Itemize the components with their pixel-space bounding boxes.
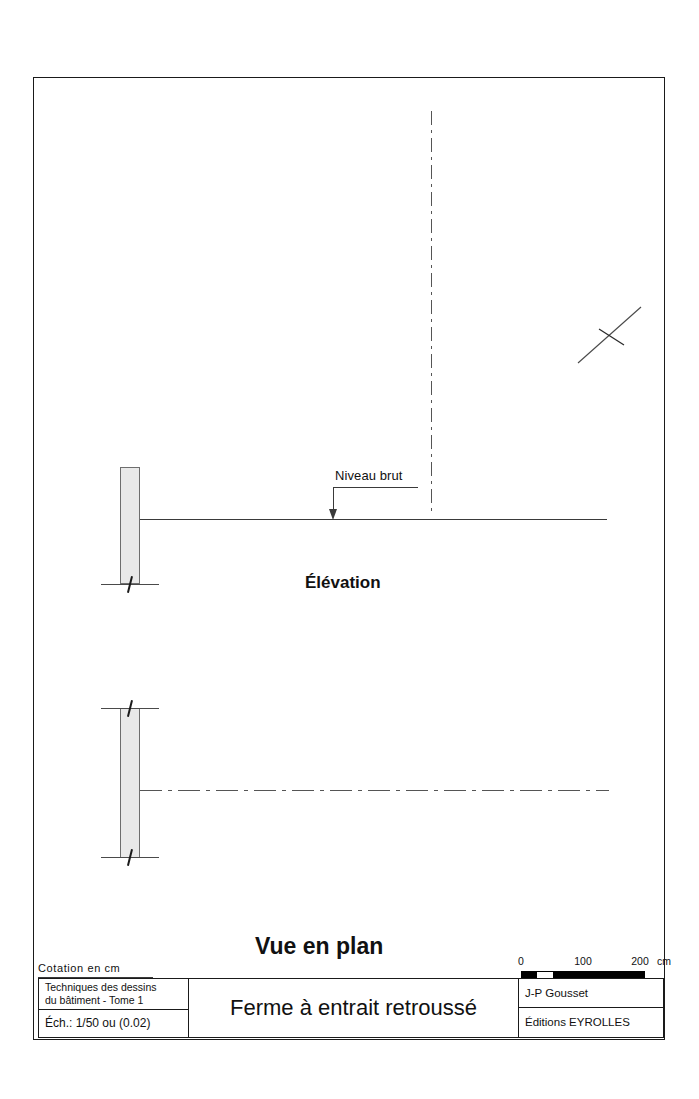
elevation-caption: Élévation — [305, 573, 381, 593]
plan-wall-element — [120, 708, 140, 858]
book-title-line1: Techniques des dessins — [45, 981, 182, 994]
drawing-sheet-border: Niveau brut Élévation Vue en plan 0 — [33, 77, 665, 1040]
plan-caption: Vue en plan — [255, 933, 383, 960]
publisher-name: Éditions EYROLLES — [525, 1015, 657, 1029]
scale-bar-labels: 0 100 200 cm — [475, 955, 651, 969]
scale-unit: cm — [655, 955, 673, 967]
title-block-right-column: J-P Gousset Éditions EYROLLES — [519, 979, 663, 1037]
scale-tick-0: 0 — [513, 955, 529, 967]
cotation-note: Cotation en cm — [38, 962, 120, 974]
scale-ratio-cell: Éch.: 1/50 ou (0.02) — [39, 1010, 188, 1037]
plan-horizontal-centerline — [140, 790, 609, 791]
title-block-middle-column: Ferme à entrait retroussé — [189, 979, 519, 1037]
publisher-cell: Éditions EYROLLES — [519, 1008, 663, 1037]
niveau-brut-label: Niveau brut — [335, 468, 403, 483]
section-break-symbol — [574, 302, 646, 368]
scale-bar: 0 100 200 cm — [475, 955, 651, 969]
niveau-brut-leader-vertical — [333, 487, 334, 511]
title-block: Techniques des dessins du bâtiment - Tom… — [38, 978, 664, 1038]
drawing-title: Ferme à entrait retroussé — [230, 995, 477, 1021]
scale-tick-200: 200 — [627, 955, 653, 967]
book-reference-cell: Techniques des dessins du bâtiment - Tom… — [39, 979, 188, 1010]
elevation-ground-line — [138, 519, 607, 520]
niveau-brut-level-triangle — [329, 509, 337, 520]
elevation-wall-element — [120, 467, 140, 584]
elevation-vertical-centerline — [431, 111, 432, 511]
level-triangle-inner — [334, 520, 340, 527]
book-title-line2: du bâtiment - Tome 1 — [45, 994, 182, 1007]
author-cell: J-P Gousset — [519, 979, 663, 1008]
scale-tick-100: 100 — [570, 955, 596, 967]
scale-ratio-text: Éch.: 1/50 ou (0.02) — [45, 1016, 182, 1031]
title-block-left-column: Techniques des dessins du bâtiment - Tom… — [39, 979, 189, 1037]
author-name: J-P Gousset — [525, 986, 657, 1000]
niveau-brut-underline — [333, 487, 418, 488]
